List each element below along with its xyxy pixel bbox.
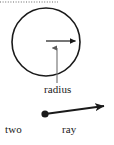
circle-shape bbox=[12, 8, 80, 76]
ray-line bbox=[45, 106, 104, 114]
two-label: two bbox=[5, 124, 22, 135]
radius-label: radius bbox=[44, 84, 71, 95]
ray-endpoint-dot bbox=[41, 110, 48, 117]
ray-label: ray bbox=[62, 124, 76, 135]
geometry-figure: radius two ray bbox=[0, 0, 114, 145]
